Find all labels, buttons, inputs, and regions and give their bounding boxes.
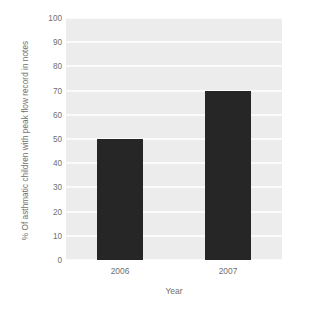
bar-2006 (97, 139, 143, 260)
x-axis-tick-labels: 2006 2007 (66, 264, 282, 278)
y-tick-label: 50 (36, 135, 62, 144)
y-axis-tick-labels: 100 90 80 70 60 50 40 30 20 10 0 (36, 18, 62, 260)
y-axis-title: % Of asthmatic children with peak flow r… (18, 18, 32, 263)
bar-2007 (205, 91, 251, 260)
plot-area (66, 18, 282, 260)
bars-layer (66, 18, 282, 260)
y-tick-label: 30 (36, 183, 62, 192)
bar-slot (66, 18, 174, 260)
y-tick-label: 80 (36, 62, 62, 71)
bar-slot (174, 18, 282, 260)
y-tick-label: 40 (36, 159, 62, 168)
bar-chart-figure: % Of asthmatic children with peak flow r… (0, 0, 328, 310)
y-tick-label: 90 (36, 38, 62, 47)
y-tick-label: 20 (36, 207, 62, 216)
y-tick-label: 60 (36, 110, 62, 119)
x-tick-label-2007: 2007 (174, 266, 282, 276)
y-tick-label: 0 (36, 256, 62, 265)
x-axis-title: Year (66, 286, 282, 296)
y-tick-label: 100 (36, 14, 62, 23)
y-tick-label: 10 (36, 231, 62, 240)
x-tick-label-2006: 2006 (66, 266, 174, 276)
y-tick-label: 70 (36, 86, 62, 95)
